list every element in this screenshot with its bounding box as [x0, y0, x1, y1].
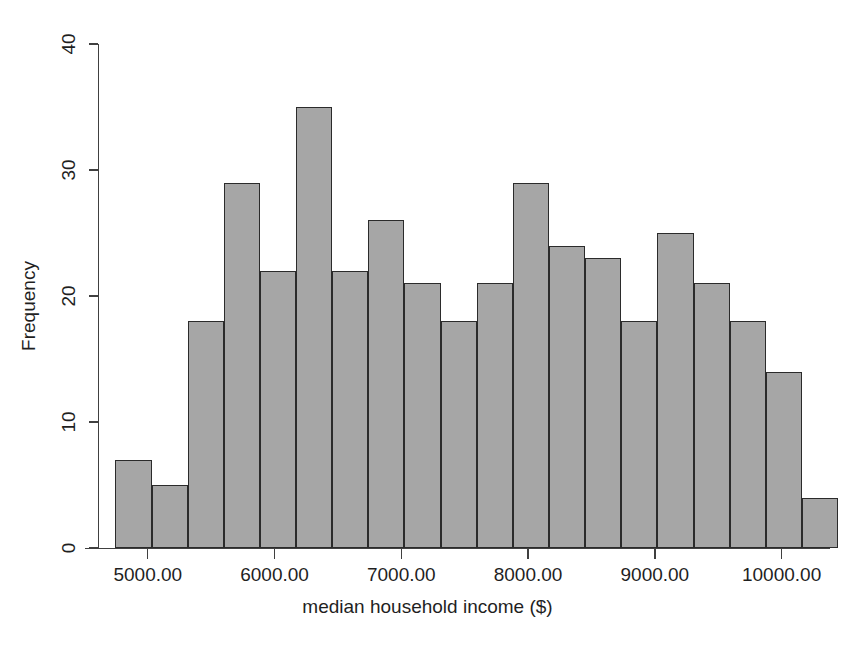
x-tick-8000.00: [527, 549, 528, 559]
y-tick-label-40: 40: [52, 33, 86, 55]
y-tick-label-text: 30: [58, 159, 80, 180]
histogram-bar: [332, 271, 368, 548]
histogram-bar: [296, 107, 332, 548]
y-tick-10: [89, 421, 98, 422]
x-tick-label-8000.00: 8000.00: [458, 564, 598, 586]
histogram-bar: [441, 321, 477, 548]
histogram-bar: [766, 372, 802, 548]
histogram-bar: [585, 258, 621, 548]
histogram-bar: [477, 283, 513, 548]
histogram-bar: [694, 283, 730, 548]
x-tick-10000.00: [781, 549, 782, 559]
histogram-bar: [260, 271, 296, 548]
y-tick-40: [89, 43, 98, 44]
x-tick-label-10000.00: 10000.00: [712, 564, 852, 586]
y-axis-title: Frequency: [18, 236, 44, 376]
histogram-bar: [152, 485, 188, 548]
histogram-bar: [188, 321, 224, 548]
x-tick-label-9000.00: 9000.00: [585, 564, 725, 586]
histogram-bar: [513, 183, 549, 548]
y-tick-label-0: 0: [52, 537, 86, 559]
y-tick-0: [89, 547, 98, 548]
histogram-bar: [730, 321, 766, 548]
x-tick-6000.00: [274, 549, 275, 559]
y-tick-label-text: 40: [58, 33, 80, 54]
x-tick-5000.00: [147, 549, 148, 559]
y-tick-label-text: 10: [58, 411, 80, 432]
histogram-bar: [549, 246, 585, 548]
plot-area: [99, 44, 845, 548]
y-axis-title-text: Frequency: [18, 236, 40, 376]
y-tick-label-30: 30: [52, 159, 86, 181]
y-tick-label-10: 10: [52, 411, 86, 433]
x-tick-label-5000.00: 5000.00: [78, 564, 218, 586]
histogram-bar: [115, 460, 151, 548]
histogram-figure: Frequency 010203040 5000.006000.007000.0…: [0, 0, 855, 657]
x-axis-line: [85, 548, 830, 549]
x-tick-9000.00: [654, 549, 655, 559]
y-tick-label-text: 0: [58, 543, 80, 554]
histogram-bar: [368, 220, 404, 548]
x-tick-7000.00: [401, 549, 402, 559]
y-tick-20: [89, 295, 98, 296]
x-axis-title: median household income ($): [0, 596, 855, 618]
x-tick-label-7000.00: 7000.00: [331, 564, 471, 586]
y-tick-30: [89, 169, 98, 170]
histogram-bar: [657, 233, 693, 548]
y-tick-label-20: 20: [52, 285, 86, 307]
histogram-bar: [224, 183, 260, 548]
x-tick-label-6000.00: 6000.00: [205, 564, 345, 586]
histogram-bar: [404, 283, 440, 548]
histogram-bar: [802, 498, 838, 548]
y-tick-label-text: 20: [58, 285, 80, 306]
histogram-bar: [621, 321, 657, 548]
